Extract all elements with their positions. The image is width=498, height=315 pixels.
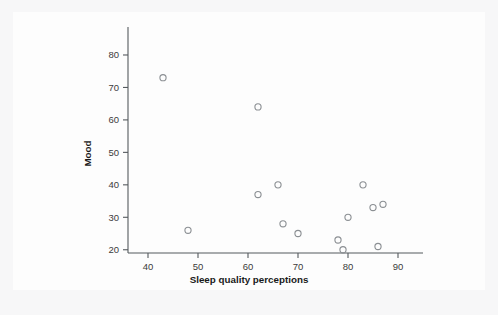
data-point (255, 191, 261, 197)
y-tick-label: 40 (108, 179, 119, 190)
x-axis-tick-labels: 405060708090 (143, 261, 404, 272)
y-tick-label: 50 (108, 147, 119, 158)
data-point (335, 237, 341, 243)
data-point (375, 243, 381, 249)
x-axis-title: Sleep quality perceptions (190, 274, 309, 285)
x-tick-label: 50 (193, 261, 204, 272)
figure-card: 20304050607080 405060708090 Sleep qualit… (13, 12, 485, 290)
data-point (185, 227, 191, 233)
x-tick-label: 90 (393, 261, 404, 272)
data-point (275, 182, 281, 188)
x-tick-label: 70 (293, 261, 304, 272)
data-point (345, 214, 351, 220)
data-point (340, 247, 346, 253)
data-point (295, 230, 301, 236)
data-point (280, 221, 286, 227)
x-axis-group: 405060708090 (128, 253, 423, 272)
x-tick-label: 60 (243, 261, 254, 272)
data-point (360, 182, 366, 188)
data-points-group (160, 75, 386, 253)
y-tick-label: 60 (108, 114, 119, 125)
data-point (380, 201, 386, 207)
y-axis-title: Mood (82, 140, 93, 166)
scatter-plot: 20304050607080 405060708090 Sleep qualit… (13, 12, 485, 290)
y-axis-tick-labels: 20304050607080 (108, 49, 119, 255)
y-tick-label: 80 (108, 49, 119, 60)
data-point (160, 75, 166, 81)
x-tick-label: 80 (343, 261, 354, 272)
y-tick-label: 70 (108, 82, 119, 93)
y-axis-group: 20304050607080 (108, 27, 128, 255)
y-axis-ticks (123, 55, 128, 250)
data-point (255, 104, 261, 110)
y-tick-label: 20 (108, 244, 119, 255)
y-tick-label: 30 (108, 212, 119, 223)
screenshot-root: 20304050607080 405060708090 Sleep qualit… (0, 0, 498, 315)
data-point (370, 204, 376, 210)
x-axis-ticks (148, 253, 398, 258)
x-tick-label: 40 (143, 261, 154, 272)
